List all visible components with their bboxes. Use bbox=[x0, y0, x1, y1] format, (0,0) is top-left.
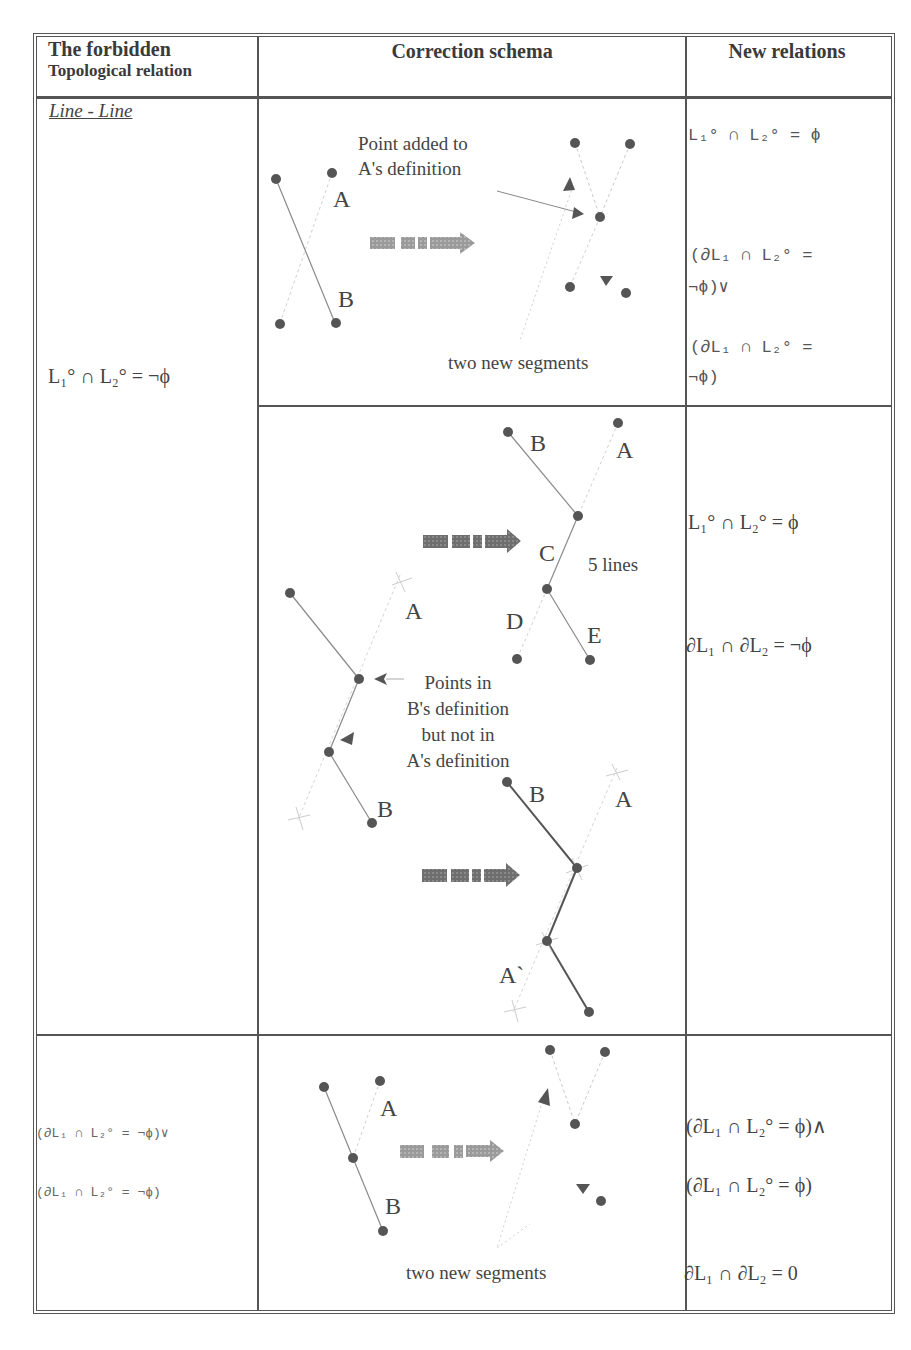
label-D-result5: D bbox=[506, 608, 523, 635]
label-C-result5: C bbox=[539, 540, 555, 567]
annotation-5-lines: 5 lines bbox=[588, 554, 638, 576]
new-relation-1e: ¬ϕ) bbox=[688, 368, 719, 387]
new-relation-2b: ∂L₁ ∩ ∂L₂ = ¬ϕ bbox=[686, 634, 812, 657]
label-E-result5: E bbox=[587, 622, 602, 649]
annotation-points-in-b-definition: Points in B's definition but not in A's … bbox=[388, 670, 528, 774]
annotation-line4: A's definition bbox=[388, 748, 528, 774]
row-divider-1 bbox=[259, 405, 891, 407]
annotation-two-new-segments-1: two new segments bbox=[448, 352, 588, 374]
label-B-block1: B bbox=[338, 286, 354, 313]
label-A-block2-before: A bbox=[405, 598, 422, 625]
column-divider-1 bbox=[257, 37, 259, 1310]
forbidden-relation-row2-line2: (∂L₁ ∩ L₂° = ¬ϕ) bbox=[36, 1185, 161, 1200]
label-A-prime-merged: A` bbox=[499, 962, 524, 989]
header-forbidden-line1: The forbidden bbox=[48, 38, 253, 61]
new-relation-1b: (∂L₁ ∩ L₂° = bbox=[690, 246, 812, 265]
label-B-block3: B bbox=[385, 1193, 401, 1220]
annotation-line1: Points in bbox=[388, 670, 528, 696]
annotation-line3: but not in bbox=[388, 722, 528, 748]
header-new-relations: New relations bbox=[687, 40, 887, 63]
label-B-result5: B bbox=[530, 430, 546, 457]
annotation-two-new-segments-2: two new segments bbox=[406, 1262, 546, 1284]
section-label-line-line: Line - Line bbox=[49, 100, 132, 122]
forbidden-relation-row2-line1: (∂L₁ ∩ L₂° = ¬ϕ)∨ bbox=[36, 1125, 169, 1141]
row-divider-2 bbox=[37, 1034, 891, 1036]
header-forbidden-line2: Topological relation bbox=[48, 61, 253, 81]
new-relation-1a: L₁° ∩ L₂° = ϕ bbox=[688, 126, 821, 145]
label-B-merged: B bbox=[529, 781, 545, 808]
new-relation-1d: (∂L₁ ∩ L₂° = bbox=[690, 338, 812, 357]
label-A-merged: A bbox=[615, 786, 632, 813]
new-relation-3a: (∂L₁ ∩ L₂° = ϕ)∧ bbox=[686, 1114, 827, 1138]
annotation-point-added-line2: A's definition bbox=[358, 158, 461, 180]
header-forbidden-relation: The forbidden Topological relation bbox=[48, 38, 253, 81]
label-A-block3: A bbox=[380, 1095, 397, 1122]
label-B-block2-before: B bbox=[377, 796, 393, 823]
figure-caption-cropped: ​ bbox=[0, 1341, 911, 1350]
label-A-block1: A bbox=[333, 186, 350, 213]
new-relation-1c: ¬ϕ)∨ bbox=[688, 276, 729, 297]
annotation-line2: B's definition bbox=[388, 696, 528, 722]
header-correction-schema: Correction schema bbox=[259, 40, 685, 63]
new-relation-3b: (∂L₁ ∩ L₂° = ϕ) bbox=[686, 1174, 812, 1197]
annotation-point-added-line1: Point added to bbox=[358, 133, 468, 155]
forbidden-relation-row1: L₁° ∩ L₂° = ¬ϕ bbox=[48, 365, 170, 388]
new-relation-3c: ∂L₁ ∩ ∂L₂ = 0 bbox=[684, 1262, 798, 1285]
new-relation-2a: L₁° ∩ L₂° = ϕ bbox=[688, 511, 799, 534]
label-A-result5: A bbox=[616, 437, 633, 464]
header-row-divider bbox=[37, 96, 891, 99]
